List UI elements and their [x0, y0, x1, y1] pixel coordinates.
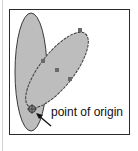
handle-square[interactable]: [41, 59, 45, 63]
point-of-origin-label: point of origin: [51, 105, 123, 119]
handle-square[interactable]: [68, 77, 72, 81]
handle-square[interactable]: [55, 68, 59, 72]
handle-square[interactable]: [78, 28, 82, 32]
ellipse-rotation-diagram: [0, 0, 138, 151]
